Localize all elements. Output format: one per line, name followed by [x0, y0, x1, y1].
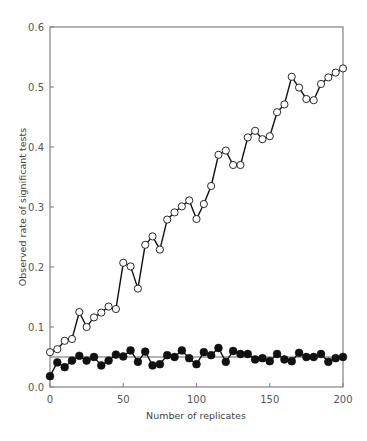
data-point-marker	[222, 147, 229, 154]
data-point-marker	[207, 351, 215, 359]
data-point-marker	[53, 359, 61, 367]
data-point-marker	[97, 362, 105, 370]
data-point-marker	[68, 335, 75, 342]
x-tick-label: 100	[187, 394, 206, 405]
y-axis-title: Observed rate of significant tests	[17, 128, 28, 287]
data-point-marker	[339, 353, 347, 361]
x-tick-label: 0	[47, 394, 53, 405]
data-point-marker	[156, 246, 163, 253]
data-point-marker	[324, 358, 332, 366]
data-point-marker	[266, 133, 273, 140]
data-point-marker	[90, 314, 97, 321]
data-point-marker	[163, 351, 171, 359]
data-point-marker	[339, 65, 346, 72]
data-point-marker	[119, 353, 127, 361]
data-point-marker	[54, 346, 61, 353]
y-tick-label: 0.1	[28, 322, 44, 333]
y-tick-label: 0.3	[28, 202, 44, 213]
y-tick-label: 0.2	[28, 262, 44, 273]
data-point-marker	[171, 209, 178, 216]
plot-border	[50, 27, 343, 387]
data-point-marker	[266, 357, 274, 365]
data-point-marker	[105, 357, 113, 365]
data-point-marker	[215, 151, 222, 158]
x-tick-label: 50	[117, 394, 130, 405]
data-point-marker	[46, 372, 54, 380]
x-axis: 050100150200	[47, 383, 353, 405]
data-point-marker	[164, 216, 171, 223]
data-point-marker	[310, 97, 317, 104]
data-point-marker	[208, 182, 215, 189]
data-point-marker	[200, 348, 208, 356]
data-point-marker	[310, 353, 318, 361]
data-point-marker	[229, 347, 237, 355]
data-point-marker	[171, 353, 179, 361]
data-point-marker	[244, 134, 251, 141]
data-point-marker	[302, 353, 310, 361]
data-point-marker	[46, 349, 53, 356]
data-point-marker	[303, 95, 310, 102]
data-series	[46, 65, 347, 380]
data-point-marker	[134, 358, 142, 366]
data-point-marker	[112, 305, 119, 312]
data-point-marker	[259, 136, 266, 143]
line-chart: 0.00.10.20.30.40.50.6 050100150200 Numbe…	[0, 0, 367, 441]
data-point-marker	[156, 360, 164, 368]
data-point-marker	[251, 356, 259, 364]
data-point-marker	[273, 109, 280, 116]
data-point-marker	[178, 203, 185, 210]
data-point-marker	[281, 356, 289, 364]
data-point-marker	[193, 360, 201, 368]
x-tick-label: 200	[333, 394, 352, 405]
data-point-marker	[134, 285, 141, 292]
data-point-marker	[127, 347, 135, 355]
data-point-marker	[288, 357, 296, 365]
plot-frame	[50, 27, 343, 387]
data-point-marker	[325, 74, 332, 81]
data-point-marker	[178, 347, 186, 355]
data-point-marker	[90, 353, 98, 361]
data-point-marker	[332, 354, 340, 362]
data-point-marker	[61, 363, 69, 371]
data-point-marker	[317, 350, 325, 358]
data-point-marker	[149, 233, 156, 240]
data-point-marker	[200, 200, 207, 207]
data-point-marker	[98, 309, 105, 316]
data-point-marker	[149, 362, 157, 370]
data-point-marker	[215, 344, 223, 352]
data-point-marker	[186, 197, 193, 204]
x-axis-title: Number of replicates	[146, 410, 246, 421]
data-point-marker	[237, 350, 245, 358]
data-point-marker	[127, 263, 134, 270]
data-point-marker	[105, 303, 112, 310]
data-point-marker	[61, 337, 68, 344]
data-point-marker	[141, 348, 149, 356]
data-point-marker	[120, 259, 127, 266]
data-point-marker	[332, 69, 339, 76]
data-point-marker	[83, 323, 90, 330]
data-point-marker	[237, 161, 244, 168]
data-point-marker	[244, 350, 252, 358]
data-point-marker	[193, 215, 200, 222]
data-point-marker	[76, 308, 83, 315]
x-tick-label: 150	[260, 394, 279, 405]
data-point-marker	[112, 351, 120, 359]
data-point-marker	[222, 358, 230, 366]
data-point-marker	[273, 350, 281, 358]
y-tick-label: 0.6	[28, 22, 44, 33]
data-point-marker	[230, 161, 237, 168]
data-point-marker	[259, 354, 267, 362]
data-point-marker	[185, 354, 193, 362]
filled-circle-series	[46, 344, 347, 380]
data-point-marker	[317, 80, 324, 87]
data-point-marker	[68, 357, 76, 365]
data-point-marker	[281, 101, 288, 108]
y-tick-label: 0.4	[28, 142, 44, 153]
y-tick-label: 0.5	[28, 82, 44, 93]
data-point-marker	[295, 349, 303, 357]
y-tick-label: 0.0	[28, 382, 44, 393]
data-point-marker	[288, 73, 295, 80]
data-point-marker	[142, 241, 149, 248]
data-point-marker	[75, 352, 83, 360]
data-point-marker	[252, 127, 259, 134]
